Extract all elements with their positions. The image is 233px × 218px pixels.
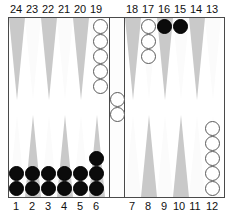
backgammon-board-figure: 24 23 22 21 20 19 18 17 16 15 14 13 bbox=[0, 0, 233, 218]
checker-black[interactable] bbox=[41, 181, 56, 196]
quadrant-top-right bbox=[125, 18, 225, 107]
stack-point-3[interactable] bbox=[41, 108, 57, 197]
point-label-22: 22 bbox=[40, 2, 56, 16]
stack-point-6[interactable] bbox=[89, 108, 105, 197]
point-label-20: 20 bbox=[72, 2, 88, 16]
point-10[interactable] bbox=[173, 108, 189, 197]
checker-black[interactable] bbox=[173, 19, 188, 34]
point-22[interactable] bbox=[41, 18, 57, 107]
checker-white[interactable] bbox=[93, 34, 108, 49]
point-11[interactable] bbox=[189, 108, 205, 197]
point-label-7: 7 bbox=[124, 199, 140, 213]
checker-black[interactable] bbox=[9, 166, 24, 181]
checker-black[interactable] bbox=[57, 166, 72, 181]
checker-black[interactable] bbox=[73, 166, 88, 181]
quadrant-bottom-right bbox=[125, 108, 225, 197]
checker-white[interactable] bbox=[93, 79, 108, 94]
point-label-4: 4 bbox=[56, 199, 72, 213]
checker-white-on-bar[interactable] bbox=[110, 107, 125, 122]
point-20[interactable] bbox=[73, 18, 89, 107]
stack-point-4[interactable] bbox=[57, 108, 73, 197]
stack-point-12[interactable] bbox=[205, 108, 221, 197]
point-label-5: 5 bbox=[72, 199, 88, 213]
quadrant-bottom-left bbox=[9, 108, 109, 197]
checker-white-on-bar[interactable] bbox=[110, 92, 125, 107]
checker-black[interactable] bbox=[73, 181, 88, 196]
stack-point-5[interactable] bbox=[73, 108, 89, 197]
point-label-8: 8 bbox=[140, 199, 156, 213]
checker-white[interactable] bbox=[93, 19, 108, 34]
point-label-24: 24 bbox=[8, 2, 24, 16]
point-label-17: 17 bbox=[140, 2, 156, 16]
point-label-2: 2 bbox=[24, 199, 40, 213]
stack-point-17[interactable] bbox=[141, 18, 157, 107]
point-label-12: 12 bbox=[204, 199, 220, 213]
point-21[interactable] bbox=[57, 18, 73, 107]
checker-black[interactable] bbox=[41, 166, 56, 181]
point-label-14: 14 bbox=[188, 2, 204, 16]
stack-point-1[interactable] bbox=[9, 108, 25, 197]
stack-point-19[interactable] bbox=[93, 18, 109, 107]
checker-black[interactable] bbox=[157, 19, 172, 34]
point-7[interactable] bbox=[125, 108, 141, 197]
point-label-10: 10 bbox=[171, 199, 187, 213]
point-24[interactable] bbox=[9, 18, 25, 107]
checker-black[interactable] bbox=[25, 181, 40, 196]
point-23[interactable] bbox=[25, 18, 41, 107]
point-13[interactable] bbox=[205, 18, 221, 107]
stack-point-2[interactable] bbox=[25, 108, 41, 197]
point-label-11: 11 bbox=[187, 199, 203, 213]
point-label-9: 9 bbox=[156, 199, 172, 213]
point-14[interactable] bbox=[189, 18, 205, 107]
checker-black[interactable] bbox=[89, 151, 104, 166]
point-label-18: 18 bbox=[124, 2, 140, 16]
checker-white[interactable] bbox=[205, 181, 220, 196]
point-label-6: 6 bbox=[88, 199, 104, 213]
checker-black[interactable] bbox=[89, 166, 104, 181]
checker-white[interactable] bbox=[93, 64, 108, 79]
stack-point-15[interactable] bbox=[173, 18, 189, 107]
point-label-13: 13 bbox=[204, 2, 220, 16]
point-label-1: 1 bbox=[8, 199, 24, 213]
checker-black[interactable] bbox=[57, 181, 72, 196]
point-label-16: 16 bbox=[156, 2, 172, 16]
point-label-19: 19 bbox=[88, 2, 104, 16]
board-frame bbox=[8, 17, 225, 198]
checker-white[interactable] bbox=[205, 151, 220, 166]
bottom-point-labels: 1 2 3 4 5 6 7 8 9 10 11 12 bbox=[0, 199, 233, 213]
checker-black[interactable] bbox=[9, 181, 24, 196]
checker-black[interactable] bbox=[89, 181, 104, 196]
point-18[interactable] bbox=[125, 18, 141, 107]
checker-white[interactable] bbox=[93, 49, 108, 64]
checker-white[interactable] bbox=[205, 136, 220, 151]
checker-white[interactable] bbox=[141, 19, 156, 34]
point-label-15: 15 bbox=[172, 2, 188, 16]
point-label-23: 23 bbox=[24, 2, 40, 16]
bar-stack-white[interactable] bbox=[109, 18, 125, 199]
point-8[interactable] bbox=[141, 108, 157, 197]
top-point-labels: 24 23 22 21 20 19 18 17 16 15 14 13 bbox=[0, 2, 233, 16]
point-9[interactable] bbox=[157, 108, 173, 197]
checker-white[interactable] bbox=[141, 34, 156, 49]
quadrant-top-left bbox=[9, 18, 109, 107]
checker-white[interactable] bbox=[205, 121, 220, 136]
checker-black[interactable] bbox=[25, 166, 40, 181]
checker-white[interactable] bbox=[141, 49, 156, 64]
checker-white[interactable] bbox=[205, 166, 220, 181]
point-label-21: 21 bbox=[56, 2, 72, 16]
stack-point-16[interactable] bbox=[157, 18, 173, 107]
point-label-3: 3 bbox=[40, 199, 56, 213]
